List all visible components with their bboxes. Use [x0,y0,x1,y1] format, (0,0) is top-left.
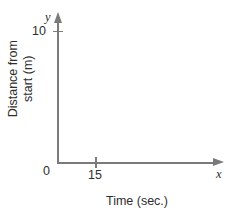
y-axis-tick-10 [53,31,63,33]
y-axis-variable-label: y [45,11,51,24]
x-axis-tick-15 [95,157,97,168]
y-axis-title-line-2: start (m) [21,14,36,144]
x-axis-arrow-icon [213,158,224,166]
x-axis-tick-label-15: 15 [88,169,102,182]
x-axis-line [57,162,216,164]
y-axis-arrow-icon [54,12,62,23]
origin-tick-label: 0 [43,165,50,178]
y-axis-line [57,22,59,164]
blank-distance-time-graph: 10 0 15 y x Distance from start (m) Time… [0,0,235,221]
x-axis-title: Time (sec.) [57,195,217,208]
y-axis-title: Distance from start (m) [6,14,36,144]
y-axis-title-line-1: Distance from [6,14,21,144]
x-axis-variable-label: x [216,168,222,181]
